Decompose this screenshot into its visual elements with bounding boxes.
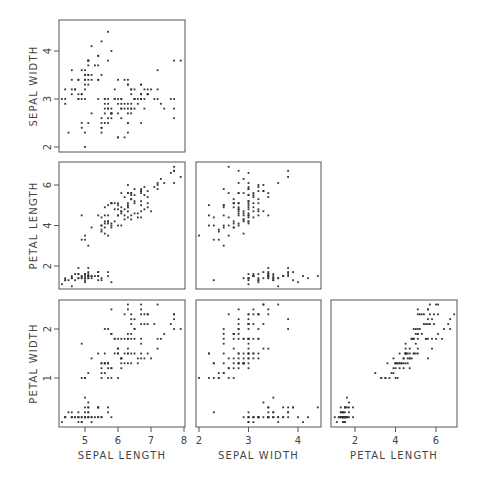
data-point xyxy=(248,338,250,340)
data-point xyxy=(107,215,109,217)
data-point xyxy=(140,338,142,340)
data-point xyxy=(253,192,255,194)
data-point xyxy=(134,89,136,91)
data-point xyxy=(117,79,119,81)
data-point xyxy=(71,277,73,279)
data-point xyxy=(374,372,376,374)
data-point xyxy=(150,89,152,91)
data-point xyxy=(130,93,132,95)
data-point xyxy=(140,204,142,206)
data-point xyxy=(137,98,139,100)
data-point xyxy=(258,328,260,330)
data-point xyxy=(147,206,149,208)
data-point xyxy=(130,353,132,355)
data-point xyxy=(272,275,274,277)
data-point xyxy=(144,208,146,210)
data-point xyxy=(84,416,86,418)
data-point xyxy=(393,372,395,374)
data-point xyxy=(258,210,260,212)
data-point xyxy=(117,98,119,100)
data-point xyxy=(87,402,89,404)
data-point xyxy=(97,79,99,81)
data-point xyxy=(114,338,116,340)
data-point xyxy=(397,377,399,379)
y-tick-label: 2 xyxy=(42,263,53,269)
data-point xyxy=(101,367,103,369)
data-point xyxy=(140,217,142,219)
data-point xyxy=(114,221,116,223)
data-point xyxy=(81,98,83,100)
data-point xyxy=(84,273,86,275)
data-point xyxy=(101,279,103,281)
data-point xyxy=(395,377,397,379)
data-point xyxy=(228,166,230,168)
data-point xyxy=(238,309,240,311)
data-point xyxy=(218,229,220,231)
data-point xyxy=(248,186,250,188)
data-point xyxy=(238,333,240,335)
data-point xyxy=(243,416,245,418)
panel-frame xyxy=(331,300,457,427)
data-point xyxy=(267,273,269,275)
data-point xyxy=(317,275,319,277)
data-point xyxy=(91,421,93,423)
data-point xyxy=(248,215,250,217)
data-point xyxy=(441,338,443,340)
data-point xyxy=(429,313,431,315)
data-point xyxy=(87,273,89,275)
data-point xyxy=(120,338,122,340)
data-point xyxy=(130,108,132,110)
data-point xyxy=(127,304,129,306)
data-point xyxy=(449,328,451,330)
data-point xyxy=(417,353,419,355)
data-point xyxy=(163,108,165,110)
data-point xyxy=(267,271,269,273)
data-point xyxy=(71,89,73,91)
data-point xyxy=(111,113,113,115)
data-point xyxy=(292,271,294,273)
data-point xyxy=(263,271,265,273)
data-point xyxy=(104,227,106,229)
data-point xyxy=(134,200,136,202)
data-point xyxy=(267,411,269,413)
data-point xyxy=(107,60,109,62)
data-point xyxy=(258,358,260,360)
data-point xyxy=(198,377,200,379)
data-point xyxy=(127,184,129,186)
x-tick-label: 8 xyxy=(181,435,187,446)
data-point xyxy=(272,397,274,399)
y-axis-label: PETAL WIDTH xyxy=(28,323,39,404)
data-point xyxy=(243,362,245,364)
data-point xyxy=(104,353,106,355)
data-point xyxy=(218,231,220,233)
data-point xyxy=(127,338,129,340)
data-point xyxy=(233,227,235,229)
data-point xyxy=(124,196,126,198)
data-point xyxy=(173,98,175,100)
data-point xyxy=(180,328,182,330)
data-point xyxy=(253,202,255,204)
data-point xyxy=(208,215,210,217)
data-point xyxy=(223,245,225,247)
data-point xyxy=(409,348,411,350)
data-point xyxy=(140,192,142,194)
data-point xyxy=(253,421,255,423)
data-point xyxy=(238,182,240,184)
data-point xyxy=(124,79,126,81)
data-point xyxy=(104,221,106,223)
data-point xyxy=(253,313,255,315)
data-point xyxy=(120,206,122,208)
data-point xyxy=(267,313,269,315)
data-point xyxy=(267,192,269,194)
data-point xyxy=(124,208,126,210)
data-point xyxy=(253,210,255,212)
data-point xyxy=(277,421,279,423)
data-point xyxy=(147,202,149,204)
data-point xyxy=(127,103,129,105)
data-point xyxy=(342,416,344,418)
data-point xyxy=(87,74,89,76)
data-point xyxy=(208,204,210,206)
x-tick-label: 2 xyxy=(196,435,202,446)
data-point xyxy=(74,273,76,275)
data-point xyxy=(223,338,225,340)
